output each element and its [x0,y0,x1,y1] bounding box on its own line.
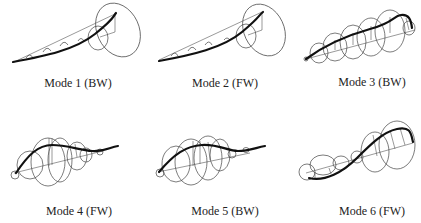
mode-5-shape-diagram [140,110,285,190]
mode-6-panel: Mode 6 (FW) [285,110,421,223]
mode-2-shape-diagram [140,0,285,70]
mode-6-label: Mode 6 (FW) [339,204,405,219]
mode-6-shape-diagram [285,110,421,190]
mode-1-shape-diagram [0,0,140,70]
mode-1-label: Mode 1 (BW) [44,76,111,91]
mode-3-shape-diagram [285,0,421,70]
mode-2-label: Mode 2 (FW) [192,76,258,91]
mode-4-panel: Mode 4 (FW) [0,110,140,223]
mode-1-panel: Mode 1 (BW) [0,0,140,95]
mode-3-panel: Mode 3 (BW) [285,0,421,95]
mode-5-label: Mode 5 (BW) [191,204,258,219]
mode-2-panel: Mode 2 (FW) [140,0,285,95]
mode-4-label: Mode 4 (FW) [46,204,112,219]
mode-5-panel: Mode 5 (BW) [140,110,285,223]
mode-3-label: Mode 3 (BW) [338,75,405,90]
mode-4-shape-diagram [0,110,140,190]
